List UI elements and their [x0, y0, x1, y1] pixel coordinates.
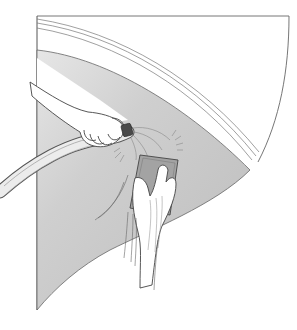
washing-illustration [0, 0, 297, 330]
illustration-canvas: Line drawing of a hand holding a garden … [0, 0, 297, 330]
